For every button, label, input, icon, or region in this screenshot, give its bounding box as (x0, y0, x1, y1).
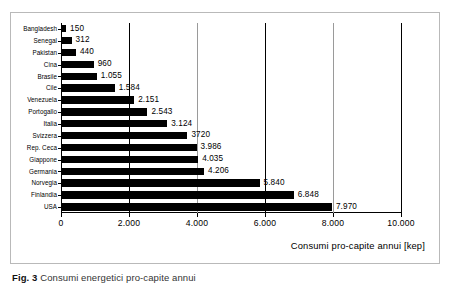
category-label: Norvegia (31, 177, 57, 189)
figure-caption-text: Consumi energetici pro-capite annui (40, 272, 196, 283)
bar-row: Svizzera3720 (61, 130, 401, 142)
bar-row: Brasile1.055 (61, 71, 401, 83)
bar-value-label: 7.970 (336, 201, 357, 212)
bar-row: Cina960 (61, 59, 401, 71)
bar-row: Cile1.584 (61, 82, 401, 94)
category-label: Cina (44, 59, 57, 71)
bar (61, 203, 332, 210)
plot-area: Bangladesh150Senegal312Pakistan440Cina96… (61, 23, 401, 213)
category-label: Brasile (37, 71, 57, 83)
bar-row: Norvegia5.840 (61, 177, 401, 189)
bar-row: Giappone4.035 (61, 154, 401, 166)
category-label: Pakistan (32, 47, 57, 59)
category-label: Venezuela (27, 94, 57, 106)
bar (61, 156, 198, 163)
bar-row: Senegal312 (61, 35, 401, 47)
bar-value-label: 4.206 (208, 165, 229, 176)
bar-value-label: 3720 (191, 129, 210, 140)
bar-value-label: 440 (80, 46, 94, 57)
x-tick-mark (129, 213, 130, 217)
category-label: USA (44, 201, 57, 213)
bar (61, 191, 294, 198)
x-tick-mark (265, 213, 266, 217)
bar-value-label: 5.840 (264, 177, 285, 188)
category-label: Germania (29, 166, 57, 178)
bar-value-label: 1.584 (119, 82, 140, 93)
bar (61, 37, 72, 44)
bar-value-label: 1.055 (101, 70, 122, 81)
bar-value-label: 3.124 (171, 118, 192, 129)
bar-row: Pakistan440 (61, 47, 401, 59)
x-tick-label: 2.000 (118, 218, 141, 228)
category-label: Senegal (34, 35, 57, 47)
bar-row: USA7.970 (61, 201, 401, 213)
bar-value-label: 2.151 (138, 94, 159, 105)
bar (61, 61, 94, 68)
figure-caption-label: Fig. 3 (12, 272, 37, 283)
bar-value-label: 3.986 (201, 141, 222, 152)
bar-value-label: 150 (70, 23, 84, 34)
x-tick-mark (401, 213, 402, 217)
bar (61, 84, 115, 91)
gridline-10000 (401, 23, 402, 213)
x-tick-label: 10.000 (387, 218, 415, 228)
bar-row: Germania4.206 (61, 166, 401, 178)
bar-rows: Bangladesh150Senegal312Pakistan440Cina96… (61, 23, 401, 213)
x-axis: 02.0004.0006.0008.00010.000 (61, 213, 401, 235)
x-tick-mark (61, 213, 62, 217)
x-tick-mark (333, 213, 334, 217)
bar-value-label: 6.848 (298, 189, 319, 200)
category-label: Bangladesh (23, 23, 57, 35)
bar (61, 120, 167, 127)
x-tick-label: 0 (59, 218, 64, 228)
x-tick-label: 6.000 (254, 218, 277, 228)
bar (61, 25, 66, 32)
category-label: Italia (43, 118, 57, 130)
bar-value-label: 960 (98, 58, 112, 69)
bar-value-label: 312 (76, 34, 90, 45)
bar-row: Italia3.124 (61, 118, 401, 130)
bar (61, 179, 260, 186)
x-tick-label: 8.000 (322, 218, 345, 228)
x-tick-label: 4.000 (186, 218, 209, 228)
bar-value-label: 2.543 (151, 106, 172, 117)
bar-row: Finlandia6.848 (61, 189, 401, 201)
figure-frame: Bangladesh150Senegal312Pakistan440Cina96… (10, 12, 440, 264)
category-label: Giappone (29, 154, 57, 166)
bar-value-label: 4.035 (202, 153, 223, 164)
bar-row: Bangladesh150 (61, 23, 401, 35)
bar (61, 96, 134, 103)
category-label: Svizzera (32, 130, 57, 142)
category-label: Portogallo (28, 106, 57, 118)
bar (61, 49, 76, 56)
bar (61, 132, 187, 139)
x-axis-title: Consumi pro-capite annui [kep] (11, 240, 425, 251)
x-tick-mark (197, 213, 198, 217)
category-label: Cile (46, 82, 57, 94)
category-label: Finlandia (31, 189, 57, 201)
bar-row: Venezuela2.151 (61, 94, 401, 106)
category-label: Rep. Ceca (27, 142, 57, 154)
bar (61, 168, 204, 175)
bar (61, 73, 97, 80)
bar (61, 144, 197, 151)
bar-row: Rep. Ceca3.986 (61, 142, 401, 154)
figure-caption: Fig. 3 Consumi energetici pro-capite ann… (12, 272, 432, 283)
bar (61, 108, 147, 115)
bar-row: Portogallo2.543 (61, 106, 401, 118)
